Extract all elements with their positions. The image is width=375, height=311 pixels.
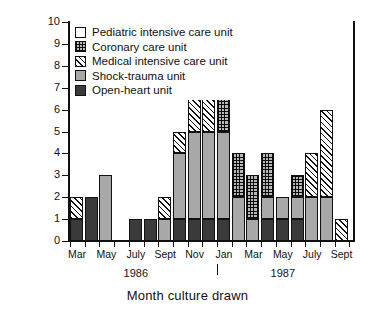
y-tick-label-7: 7 [38,82,60,93]
legend-swatch-shock [75,70,86,81]
bar-sept-1987 [335,22,348,241]
bar-segment-openheart [144,219,157,241]
bar-segment-shock [202,132,215,220]
y-tick-8 [62,66,68,67]
bar-segment-shock [320,197,333,241]
legend-item-openheart: Open-heart unit [75,83,233,98]
legend-swatch-pediatric [75,27,86,38]
bar-segment-shock [173,153,186,219]
x-tick-13 [261,242,262,247]
bar-segment-openheart [188,219,201,241]
x-tick-7 [173,242,174,247]
y-tick-3 [62,175,68,176]
bar-segment-medical [320,110,333,198]
y-tick-0 [62,241,68,242]
bar-segment-medical [158,197,171,219]
x-tick-8 [188,242,189,247]
x-tick-17 [320,242,321,247]
bar-segment-openheart [129,219,142,241]
x-tick-14 [276,242,277,247]
x-tick-4 [129,242,130,247]
bar-segment-shock [158,219,171,241]
y-tick-7 [62,88,68,89]
x-tick-0 [70,242,71,247]
x-tick-12 [246,242,247,247]
bar-segment-openheart [276,219,289,241]
bar-segment-shock [232,197,245,241]
bar-segment-medical [70,197,83,219]
bar-segment-openheart [85,197,98,241]
bar-june-1987 [291,22,304,241]
legend-item-medical: Medical intensive care unit [75,54,233,69]
x-tick-3 [114,242,115,247]
y-tick-4 [62,153,68,154]
x-tick-10 [217,242,218,247]
year-divider-mark [217,264,218,275]
bar-segment-shock [99,175,112,241]
bar-segment-coronary [232,153,245,197]
legend-label-shock: Shock-trauma unit [92,70,185,82]
legend-swatch-medical [75,56,86,67]
bar-segment-shock [188,132,201,220]
bar-mar-1987 [247,22,260,241]
x-tick-16 [305,242,306,247]
bar-segment-shock [291,197,304,219]
bar-segment-medical [173,132,186,154]
y-tick-label-8: 8 [38,60,60,71]
bar-segment-medical [305,153,318,197]
legend-label-coronary: Coronary care unit [92,41,187,53]
legend-item-pediatric: Pediatric intensive care unit [75,25,233,40]
bar-segment-openheart [173,219,186,241]
y-tick-10 [62,22,68,23]
bar-segment-openheart [217,219,230,241]
bar-segment-openheart [261,219,274,241]
x-tick-label-sept-1987: Sept [320,249,364,260]
bar-aug-1987 [320,22,333,241]
bar-segment-openheart [291,219,304,241]
y-tick-2 [62,197,68,198]
bar-segment-coronary [246,175,259,219]
bar-segment-shock [276,197,289,219]
y-tick-label-2: 2 [38,191,60,202]
bar-chart: Cases 012345678910 MarMayJulySeptNovJanM… [0,0,375,311]
legend-item-coronary: Coronary care unit [75,40,233,55]
y-tick-label-10: 10 [38,16,60,27]
x-tick-18 [335,242,336,247]
bar-segment-coronary [291,175,304,197]
x-tick-2 [99,242,100,247]
bar-segment-openheart [202,219,215,241]
bar-segment-coronary [261,153,274,197]
bar-segment-shock [305,197,318,241]
bar-segment-shock [261,197,274,219]
y-tick-label-4: 4 [38,147,60,158]
y-tick-9 [62,44,68,45]
legend-label-pediatric: Pediatric intensive care unit [92,26,233,38]
year-label-1986: 1986 [111,267,161,279]
y-tick-1 [62,219,68,220]
bar-segment-shock [246,219,259,241]
x-tick-5 [144,242,145,247]
bar-segment-openheart [70,219,83,241]
y-tick-label-1: 1 [38,213,60,224]
year-label-1987: 1987 [258,267,308,279]
y-tick-label-3: 3 [38,169,60,180]
x-axis-title: Month culture drawn [0,288,375,303]
x-tick-6 [158,242,159,247]
x-tick-11 [232,242,233,247]
x-tick-15 [291,242,292,247]
bar-segment-shock [217,132,230,220]
y-tick-label-0: 0 [38,235,60,246]
y-tick-label-6: 6 [38,104,60,115]
y-tick-6 [62,110,68,111]
legend-swatch-coronary [75,41,86,52]
legend-swatch-openheart [75,85,86,96]
y-tick-label-9: 9 [38,38,60,49]
x-tick-1 [85,242,86,247]
legend-item-shock: Shock-trauma unit [75,69,233,84]
bar-may-1987 [276,22,289,241]
bar-segment-medical [335,219,348,241]
y-tick-label-5: 5 [38,126,60,137]
bar-july-1987 [306,22,319,241]
y-tick-5 [62,132,68,133]
legend-label-openheart: Open-heart unit [92,84,172,96]
